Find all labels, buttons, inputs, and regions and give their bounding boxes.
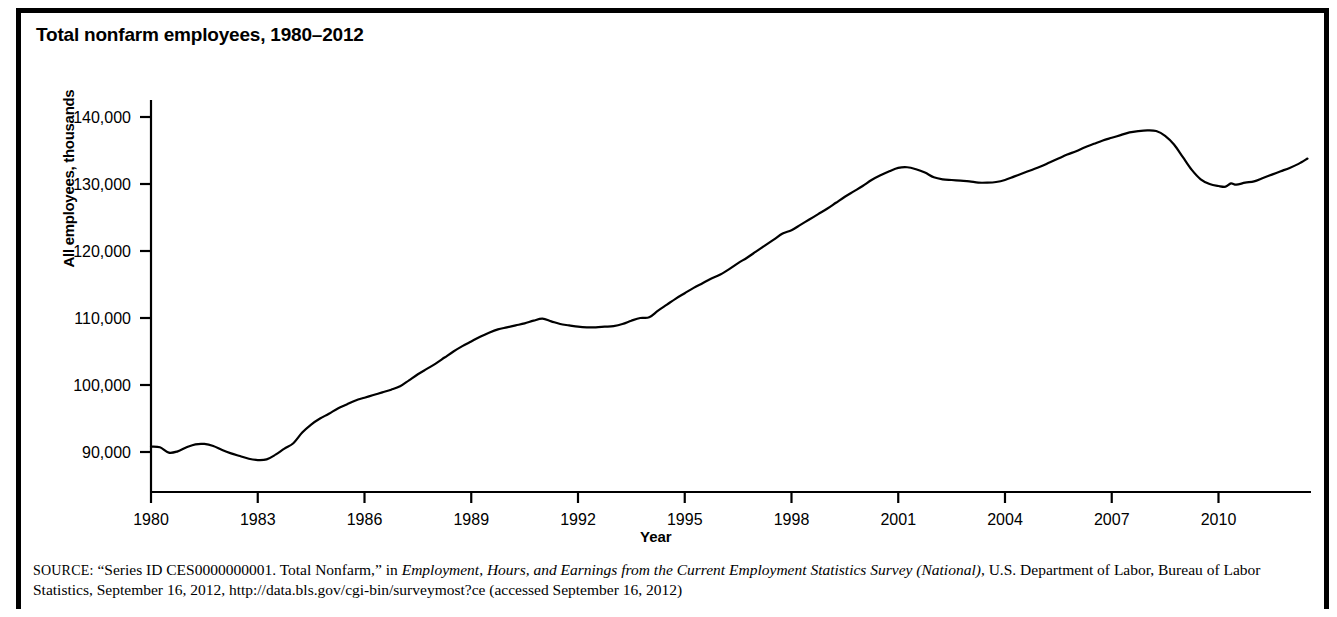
y-axis-tick-label: 140,000 (73, 109, 131, 126)
source-note: SOURCE: “Series ID CES0000000001. Total … (33, 560, 1318, 599)
line-chart-svg: 90,000100,000110,000120,000130,000140,00… (0, 0, 1337, 560)
x-axis-tick-label: 1992 (560, 511, 596, 528)
x-axis-tick-label: 1980 (133, 511, 169, 528)
plot-area: All employees, thousands Year 90,000100,… (0, 0, 1337, 560)
x-axis-tick-label: 2007 (1094, 511, 1130, 528)
x-axis-tick-label: 1983 (240, 511, 276, 528)
figure-container: Total nonfarm employees, 1980–2012 All e… (0, 0, 1337, 617)
y-axis-label: All employees, thousands (60, 59, 77, 299)
x-axis-tick-label: 1986 (347, 511, 383, 528)
y-axis-tick-label: 110,000 (74, 310, 131, 327)
x-axis-tick-label: 1998 (774, 511, 810, 528)
x-axis-tick-label: 1995 (667, 511, 703, 528)
data-line-total-nonfarm (151, 130, 1307, 460)
x-axis-tick-label: 2010 (1201, 511, 1237, 528)
y-axis-tick-label: 130,000 (73, 176, 131, 193)
source-label: SOURCE: (33, 563, 94, 578)
source-publication-title: Employment, Hours, and Earnings from the… (402, 561, 981, 578)
x-axis-label: Year (640, 528, 672, 545)
x-axis-tick-label: 2004 (987, 511, 1023, 528)
x-axis-tick-label: 2001 (880, 511, 916, 528)
y-axis-tick-label: 120,000 (73, 243, 131, 260)
source-text-1: “Series ID CES0000000001. Total Nonfarm,… (94, 561, 402, 578)
y-axis-tick-label: 100,000 (73, 377, 131, 394)
y-axis-tick-label: 90,000 (82, 444, 131, 461)
x-axis-tick-label: 1989 (453, 511, 489, 528)
